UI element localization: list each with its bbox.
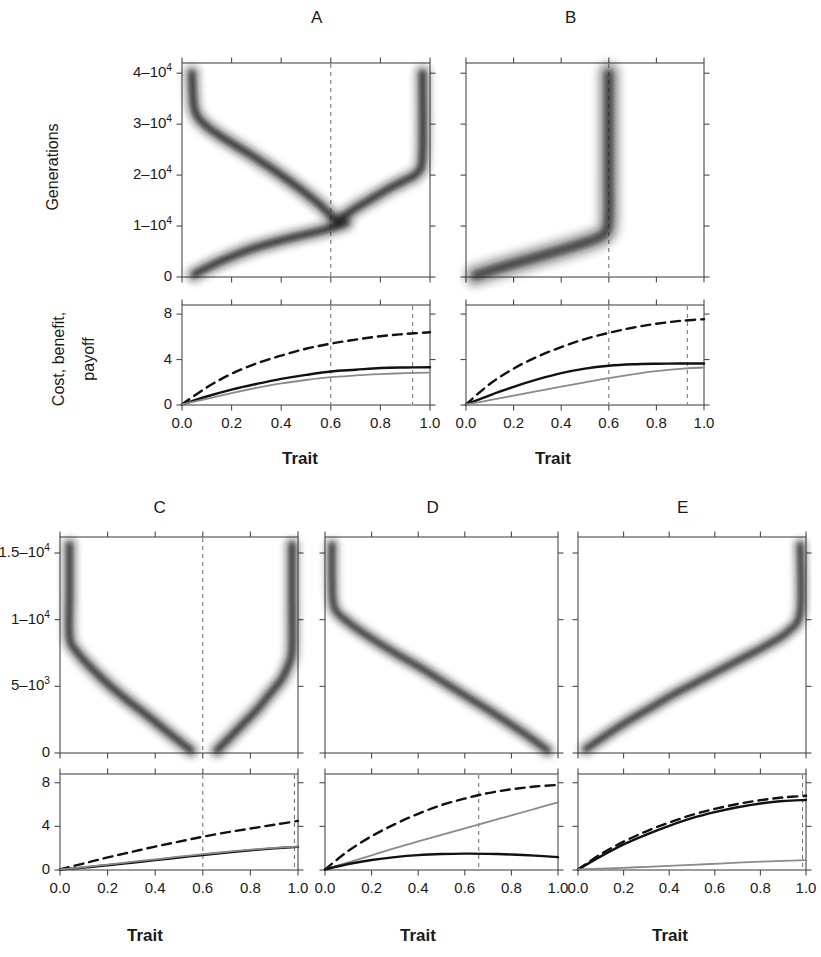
xtick-b-5: 1.0: [683, 414, 725, 431]
ytick-a-top-2: 2–104: [90, 165, 172, 182]
xtick-d-2: 0.4: [397, 879, 439, 896]
xtick-b-2: 0.4: [540, 414, 582, 431]
ytick-c-bottom-0: 0: [22, 860, 50, 877]
ytick-a-top-0: 0: [90, 267, 172, 284]
xtick-b-4: 0.8: [635, 414, 677, 431]
xtick-a-4: 0.8: [359, 414, 401, 431]
ytick-c-top-1: 5–103: [0, 676, 50, 693]
xtick-d-1: 0.2: [351, 879, 393, 896]
xtick-e-2: 0.4: [648, 879, 690, 896]
xtick-b-3: 0.6: [588, 414, 630, 431]
xtick-c-1: 0.2: [87, 879, 129, 896]
ytick-a-top-3: 3–104: [90, 114, 172, 131]
xtick-d-3: 0.6: [444, 879, 486, 896]
xtick-e-3: 0.6: [694, 879, 736, 896]
xtick-d-0: 0.0: [304, 879, 346, 896]
xtick-c-0: 0.0: [39, 879, 81, 896]
xtick-b-1: 0.2: [493, 414, 535, 431]
xtick-e-4: 0.8: [739, 879, 781, 896]
xtick-c-4: 0.8: [229, 879, 271, 896]
ytick-a-bottom-2: 8: [144, 304, 172, 321]
ytick-a-top-4: 4–104: [90, 63, 172, 80]
xtick-e-5: 1.0: [785, 879, 821, 896]
xtick-a-3: 0.6: [310, 414, 352, 431]
xtick-b-0: 0.0: [445, 414, 487, 431]
xtick-a-2: 0.4: [260, 414, 302, 431]
xtick-e-0: 0.0: [557, 879, 599, 896]
ytick-c-top-0: 0: [0, 743, 50, 760]
xtick-c-3: 0.6: [182, 879, 224, 896]
ytick-c-bottom-1: 4: [22, 816, 50, 833]
xtick-a-1: 0.2: [211, 414, 253, 431]
xtick-c-2: 0.4: [134, 879, 176, 896]
xtick-d-4: 0.8: [490, 879, 532, 896]
ytick-a-bottom-1: 4: [144, 350, 172, 367]
ytick-a-top-1: 1–104: [90, 216, 172, 233]
xtick-e-1: 0.2: [603, 879, 645, 896]
xtick-a-0: 0.0: [161, 414, 203, 431]
ytick-c-top-2: 1–104: [0, 610, 50, 627]
ytick-c-top-3: 1.5–104: [0, 543, 50, 560]
ytick-c-bottom-2: 8: [22, 773, 50, 790]
ytick-a-bottom-0: 0: [144, 395, 172, 412]
